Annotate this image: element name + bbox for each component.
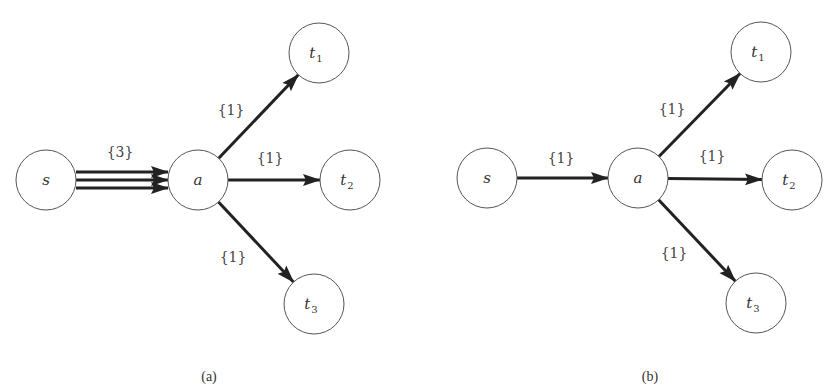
node-t3: t3 <box>726 273 786 333</box>
edge-arrow <box>659 200 736 281</box>
node-label: s <box>42 171 50 189</box>
edge-capacity-label: {1} <box>661 245 688 261</box>
flow-network-diagram: {3}{1}{1}{1}{1}{1}{1}{1} sat1t2t3sat1t2t… <box>0 0 832 392</box>
node-label: s <box>483 169 491 187</box>
edge-s-a: {1} <box>517 150 608 178</box>
edge-capacity-label: {1} <box>220 249 247 265</box>
node-label: a <box>194 171 203 189</box>
node-label: a <box>634 169 643 187</box>
node-a: a <box>608 148 668 208</box>
node-t3: t3 <box>284 274 344 334</box>
node-t1: t1 <box>731 22 791 82</box>
edge-a-t3: {1} <box>218 202 293 282</box>
node-s: s <box>457 148 517 208</box>
edge-capacity-label: {1} <box>659 101 686 117</box>
node-t1: t1 <box>289 23 349 83</box>
captions-layer: (a)(b) <box>201 369 658 385</box>
edge-arrow <box>668 178 762 179</box>
node-a: a <box>168 150 228 210</box>
edge-a-t3: {1} <box>659 200 736 281</box>
panel-caption: (b) <box>642 369 659 385</box>
edge-capacity-label: {1} <box>699 148 726 164</box>
edge-s-a: {3} <box>76 144 168 188</box>
edge-capacity-label: {1} <box>257 150 284 166</box>
edge-capacity-label: {3} <box>107 144 134 160</box>
edge-capacity-label: {1} <box>548 150 575 166</box>
node-s: s <box>16 150 76 210</box>
panel-caption: (a) <box>201 369 217 385</box>
edge-a-t1: {1} <box>218 75 299 159</box>
node-t2: t2 <box>762 150 822 210</box>
edge-a-t1: {1} <box>659 73 740 156</box>
edge-a-t2: {1} <box>668 148 762 180</box>
edge-a-t2: {1} <box>228 150 320 180</box>
edge-arrow <box>218 202 293 282</box>
edge-capacity-label: {1} <box>218 102 245 118</box>
node-t2: t2 <box>320 150 380 210</box>
